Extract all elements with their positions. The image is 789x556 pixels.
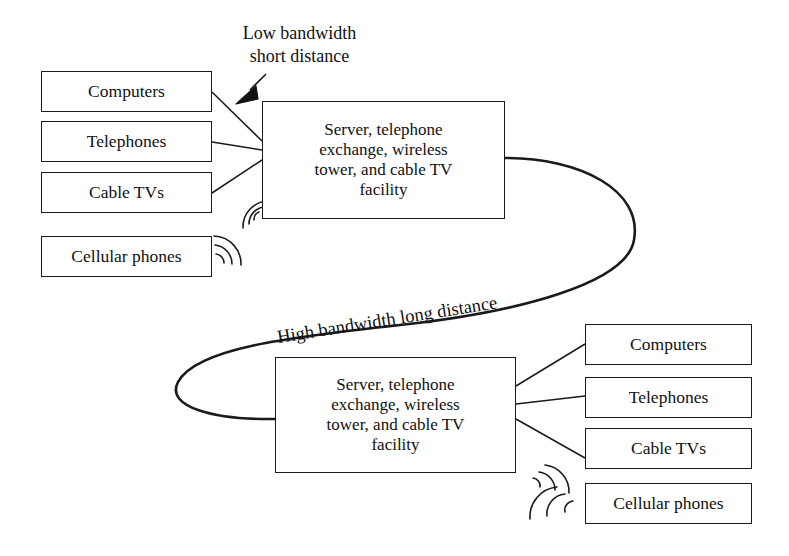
right-box-telephones[interactable]: Telephones	[585, 377, 752, 418]
left-box-telephones-label: Telephones	[87, 131, 166, 152]
left-box-computers[interactable]: Computers	[41, 71, 212, 112]
arrow-pointer-icon	[236, 74, 266, 104]
hub-box-bottom[interactable]: Server, telephone exchange, wireless tow…	[275, 357, 516, 473]
hub-box-top-line3: tower, and cable TV	[315, 160, 453, 180]
left-box-computers-label: Computers	[88, 81, 165, 102]
connector-telephones-bottom	[516, 396, 585, 404]
connector-telephones-top	[212, 142, 262, 150]
right-box-telephones-label: Telephones	[629, 387, 708, 408]
left-box-cable-tvs[interactable]: Cable TVs	[41, 172, 212, 213]
hub-box-bottom-line2: exchange, wireless	[331, 395, 459, 415]
right-box-cellular-phones-label: Cellular phones	[613, 493, 723, 514]
connector-cabletvs-top	[212, 160, 262, 193]
connector-cabletvs-bottom	[516, 419, 585, 458]
left-box-cable-tvs-label: Cable TVs	[89, 182, 164, 203]
hub-box-bottom-line1: Server, telephone	[336, 375, 454, 395]
right-box-cable-tvs[interactable]: Cable TVs	[585, 428, 752, 469]
hub-box-bottom-line4: facility	[371, 435, 419, 455]
hub-box-bottom-line3: tower, and cable TV	[327, 415, 465, 435]
hub-box-top[interactable]: Server, telephone exchange, wireless tow…	[262, 101, 505, 219]
right-box-cellular-phones[interactable]: Cellular phones	[585, 483, 752, 524]
bottom-connector-lines	[516, 344, 585, 458]
left-box-telephones[interactable]: Telephones	[41, 121, 212, 162]
right-box-computers[interactable]: Computers	[585, 324, 752, 365]
label-low-bandwidth: Low bandwidth short distance	[212, 22, 387, 67]
hub-box-top-line2: exchange, wireless	[319, 140, 447, 160]
right-box-computers-label: Computers	[630, 334, 707, 355]
wireless-signal-icon-bottom-phone	[530, 487, 573, 519]
hub-box-top-line4: facility	[359, 180, 407, 200]
left-box-cellular-phones-label: Cellular phones	[71, 246, 181, 267]
right-box-cable-tvs-label: Cable TVs	[631, 438, 706, 459]
left-box-cellular-phones[interactable]: Cellular phones	[41, 236, 212, 277]
top-connector-lines	[212, 92, 262, 193]
connector-computers-bottom	[516, 344, 585, 386]
diagram-canvas: Low bandwidth short distance High bandwi…	[0, 0, 789, 556]
hub-box-top-line1: Server, telephone	[324, 120, 442, 140]
wireless-signal-icon-top-phone	[214, 236, 241, 265]
